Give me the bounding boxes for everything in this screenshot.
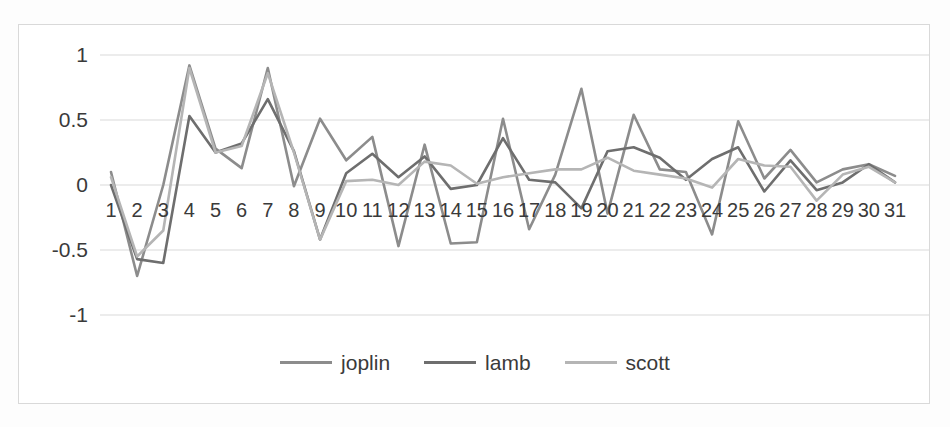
x-tick-label-6: 7 bbox=[254, 200, 282, 220]
x-tick-label-1: 2 bbox=[123, 200, 151, 220]
x-tick-label-20: 21 bbox=[620, 200, 648, 220]
x-tick-label-15: 16 bbox=[489, 200, 517, 220]
series-line-scott bbox=[111, 68, 895, 257]
x-tick-label-9: 10 bbox=[332, 200, 360, 220]
x-tick-label-30: 31 bbox=[881, 200, 909, 220]
x-tick-label-28: 29 bbox=[829, 200, 857, 220]
x-tick-label-25: 26 bbox=[750, 200, 778, 220]
y-tick-label-2: 0 bbox=[28, 174, 88, 195]
legend-label: joplin bbox=[341, 352, 390, 373]
x-tick-label-23: 24 bbox=[698, 200, 726, 220]
x-tick-label-5: 6 bbox=[228, 200, 256, 220]
x-tick-label-7: 8 bbox=[280, 200, 308, 220]
x-tick-label-12: 13 bbox=[411, 200, 439, 220]
y-tick-label-0: 1 bbox=[28, 44, 88, 65]
chart-container: 10.50-0.5-1 1234567891011121314151617181… bbox=[0, 0, 950, 427]
legend-item-lamb[interactable]: lamb bbox=[424, 352, 531, 373]
x-tick-label-21: 22 bbox=[646, 200, 674, 220]
x-tick-label-4: 5 bbox=[202, 200, 230, 220]
x-tick-label-13: 14 bbox=[437, 200, 465, 220]
legend-item-joplin[interactable]: joplin bbox=[280, 352, 390, 373]
x-tick-label-22: 23 bbox=[672, 200, 700, 220]
y-tick-label-3: -0.5 bbox=[28, 239, 88, 260]
x-tick-label-19: 20 bbox=[594, 200, 622, 220]
y-tick-label-4: -1 bbox=[28, 304, 88, 325]
x-tick-label-0: 1 bbox=[97, 200, 125, 220]
x-tick-label-10: 11 bbox=[358, 200, 386, 220]
x-tick-label-29: 30 bbox=[855, 200, 883, 220]
x-tick-label-27: 28 bbox=[803, 200, 831, 220]
legend-label: scott bbox=[626, 352, 670, 373]
x-tick-label-8: 9 bbox=[306, 200, 334, 220]
x-tick-label-16: 17 bbox=[515, 200, 543, 220]
chart-legend: joplinlambscott bbox=[0, 352, 950, 373]
x-tick-label-14: 15 bbox=[463, 200, 491, 220]
legend-line-swatch-icon bbox=[424, 361, 476, 364]
y-tick-label-1: 0.5 bbox=[28, 109, 88, 130]
x-tick-label-18: 19 bbox=[567, 200, 595, 220]
legend-line-swatch-icon bbox=[280, 361, 332, 364]
legend-label: lamb bbox=[485, 352, 531, 373]
legend-item-scott[interactable]: scott bbox=[565, 352, 670, 373]
x-tick-label-24: 25 bbox=[724, 200, 752, 220]
x-tick-label-2: 3 bbox=[149, 200, 177, 220]
series-line-joplin bbox=[111, 65, 895, 276]
x-tick-label-17: 18 bbox=[541, 200, 569, 220]
x-tick-label-26: 27 bbox=[776, 200, 804, 220]
legend-line-swatch-icon bbox=[565, 361, 617, 364]
x-tick-label-11: 12 bbox=[384, 200, 412, 220]
x-tick-label-3: 4 bbox=[175, 200, 203, 220]
